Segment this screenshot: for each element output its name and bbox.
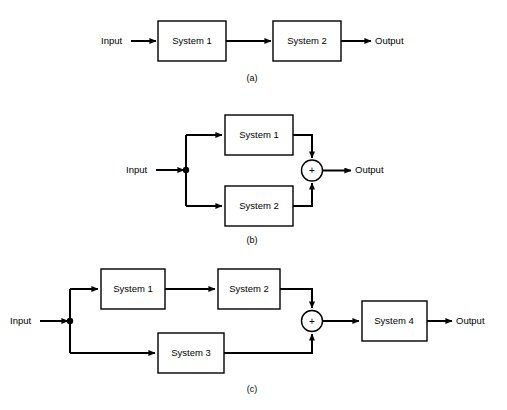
panel-c-caption: (c) xyxy=(247,384,258,394)
panel-b-input-label: Input xyxy=(126,164,147,175)
panel-c-block-system-2-label: System 2 xyxy=(229,283,269,294)
panel-c-block-system-1-label: System 1 xyxy=(113,283,153,294)
block-diagram-canvas: Input System 1 System 2 Output (a) Input… xyxy=(0,0,507,410)
panel-c-summing-junction-sign: + xyxy=(309,316,315,327)
panel-a-output-label: Output xyxy=(375,35,404,46)
panel-b-wire-system2-to-summer xyxy=(293,183,312,206)
panel-c-input-label: Input xyxy=(10,315,31,326)
block-diagram-figure: Input System 1 System 2 Output (a) Input… xyxy=(0,0,507,410)
panel-c: Input System 1 System 2 System 3 + xyxy=(10,269,485,394)
panel-b-caption: (b) xyxy=(247,235,258,245)
panel-a-caption: (a) xyxy=(247,73,258,83)
panel-c-block-system-4-label: System 4 xyxy=(374,315,414,326)
panel-a-block-system-2-label: System 2 xyxy=(287,35,327,46)
panel-c-block-system-3-label: System 3 xyxy=(171,347,211,358)
panel-c-wire-system3-to-summer xyxy=(224,334,312,353)
panel-b-block-system-2-label: System 2 xyxy=(239,200,279,211)
panel-b-wire-system1-to-summer xyxy=(293,135,312,158)
panel-a: Input System 1 System 2 Output (a) xyxy=(101,21,404,83)
panel-c-wire-system2-to-summer xyxy=(280,289,312,308)
panel-a-block-system-1-label: System 1 xyxy=(172,35,212,46)
panel-b-block-system-1-label: System 1 xyxy=(239,129,279,140)
panel-b-output-label: Output xyxy=(355,164,384,175)
panel-b-summing-junction-sign: + xyxy=(309,165,315,176)
panel-a-input-label: Input xyxy=(101,35,122,46)
panel-c-output-label: Output xyxy=(456,315,485,326)
panel-b: Input System 1 System 2 + Output (b) xyxy=(126,115,384,245)
